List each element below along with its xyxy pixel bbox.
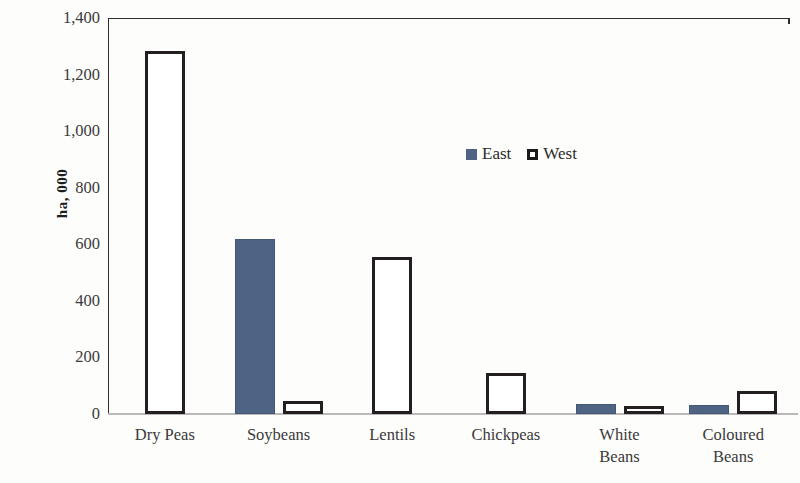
x-axis-tick: Dry Peas	[108, 424, 222, 468]
x-axis-tick: Soybeans	[222, 424, 336, 468]
legend-swatch-west-icon	[527, 149, 538, 160]
bar-group	[222, 18, 336, 414]
bar-west[interactable]	[737, 391, 777, 414]
x-axis-tick-line: Lentils	[335, 424, 449, 446]
bars-area	[108, 18, 790, 414]
bar-west[interactable]	[145, 51, 185, 414]
y-axis-tick: 1,400	[22, 8, 100, 28]
bar-group	[676, 18, 790, 414]
bar-group	[335, 18, 449, 414]
x-axis-tick-line: Chickpeas	[449, 424, 563, 446]
bar-west[interactable]	[372, 257, 412, 414]
x-axis-tick-line: White	[563, 424, 677, 446]
y-axis-tick: 400	[22, 291, 100, 311]
y-axis-tick: 1,000	[22, 121, 100, 141]
chart-legend: East West	[466, 144, 577, 164]
x-axis-tick: WhiteBeans	[563, 424, 677, 468]
bar-west[interactable]	[283, 401, 323, 414]
x-axis-tick-labels: Dry PeasSoybeansLentilsChickpeasWhiteBea…	[108, 424, 790, 468]
x-axis-tick-line: Beans	[676, 446, 790, 468]
bar-group	[563, 18, 677, 414]
bar-group	[449, 18, 563, 414]
y-axis-tick: 600	[22, 234, 100, 254]
bar-east[interactable]	[576, 404, 616, 414]
legend-swatch-east-icon	[466, 149, 477, 160]
x-axis-tick: Chickpeas	[449, 424, 563, 468]
legend-item-east[interactable]: East	[466, 144, 511, 164]
bar-west[interactable]	[624, 406, 664, 414]
legend-label-west: West	[543, 144, 577, 164]
y-axis-tick: 0	[22, 404, 100, 424]
y-axis-tick: 1,200	[22, 65, 100, 85]
x-axis-tick: ColouredBeans	[676, 424, 790, 468]
bar-east[interactable]	[689, 405, 729, 414]
y-axis-tick: 800	[22, 178, 100, 198]
y-axis-tick: 200	[22, 347, 100, 367]
x-axis-tick-line: Coloured	[676, 424, 790, 446]
y-axis-tick-labels: 02004006008001,0001,2001,400	[22, 18, 100, 414]
x-axis-tick: Lentils	[335, 424, 449, 468]
bar-west[interactable]	[486, 373, 526, 414]
legend-label-east: East	[482, 144, 511, 164]
bar-chart: ha, 000 02004006008001,0001,2001,400 Eas…	[0, 0, 800, 483]
legend-item-west[interactable]: West	[527, 144, 577, 164]
bar-group	[108, 18, 222, 414]
bar-east[interactable]	[235, 239, 275, 414]
x-axis-tick-line: Soybeans	[222, 424, 336, 446]
x-axis-tick-line: Dry Peas	[108, 424, 222, 446]
x-axis-tick-line: Beans	[563, 446, 677, 468]
